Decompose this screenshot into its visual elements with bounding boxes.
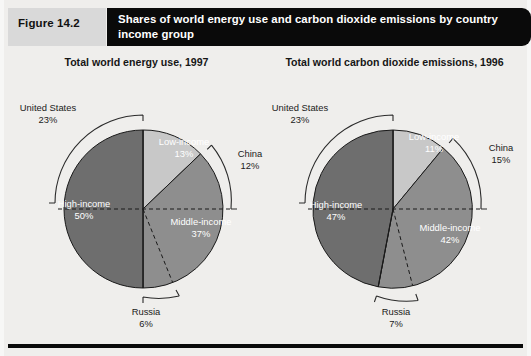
bracket-label-united-states: United States 23%: [6, 102, 90, 125]
chart-energy-use: Total world energy use, 1997: [4, 56, 269, 336]
slice-value-low-income: 13%: [175, 148, 194, 159]
bracket-name-united-states: United States: [20, 102, 76, 113]
chart-co2-emissions: Total world carbon dioxide emissions, 19…: [262, 56, 527, 336]
bracket-label-china: China 15%: [480, 142, 522, 165]
slice-label-middle-income: Middle-income 42%: [404, 222, 496, 245]
slice-name-middle-income: Middle-income: [420, 222, 481, 233]
bracket-name-russia: Russia: [382, 306, 411, 317]
bracket-value-united-states: 23%: [39, 114, 58, 125]
figure-title: Shares of world energy use and carbon di…: [118, 12, 524, 42]
chart-title-energy-use: Total world energy use, 1997: [4, 56, 269, 68]
slice-label-middle-income: Middle-income 37%: [156, 216, 246, 239]
bottom-rule: [8, 344, 523, 348]
bracket-label-russia: Russia 6%: [118, 306, 174, 329]
bracket-value-china: 12%: [241, 160, 260, 171]
figure-page: Figure 14.2 Shares of world energy use a…: [0, 0, 531, 356]
pie-plot-co2-emissions: Low-income 11% Middle-income 42% High-in…: [262, 74, 527, 336]
figure-header: Figure 14.2 Shares of world energy use a…: [0, 8, 531, 46]
bracket-name-china: China: [238, 148, 263, 159]
bracket-value-russia: 7%: [389, 318, 403, 329]
bracket-value-russia: 6%: [139, 318, 153, 329]
slice-value-middle-income: 37%: [192, 228, 211, 239]
figure-number-label: Figure 14.2: [18, 17, 80, 29]
slice-label-low-income: Low-income 11%: [397, 131, 471, 154]
slice-value-low-income: 11%: [425, 143, 443, 154]
pie-plot-energy-use: Low-income 13% Middle-income 37% High-in…: [4, 74, 269, 336]
slice-name-low-income: Low-income: [159, 136, 210, 147]
slice-name-high-income: High-income: [310, 199, 363, 210]
bracket-russia: [374, 294, 418, 302]
bracket-value-united-states: 23%: [291, 114, 310, 125]
bracket-label-united-states: United States 23%: [258, 102, 342, 125]
slice-value-high-income: 47%: [327, 211, 346, 222]
slice-value-middle-income: 42%: [441, 234, 460, 245]
bracket-name-china: China: [489, 142, 514, 153]
slice-name-low-income: Low-income: [409, 131, 460, 142]
bracket-russia: [143, 290, 179, 303]
slice-value-high-income: 50%: [75, 210, 94, 221]
chart-title-co2-emissions: Total world carbon dioxide emissions, 19…: [262, 56, 527, 68]
bracket-label-russia: Russia 7%: [368, 306, 424, 329]
slice-name-high-income: High-income: [58, 198, 111, 209]
slice-label-high-income: High-income 50%: [42, 198, 126, 221]
page-edge-right: [527, 0, 531, 356]
slice-name-middle-income: Middle-income: [171, 216, 232, 227]
slice-label-low-income: Low-income 13%: [147, 136, 221, 159]
slice-label-high-income: High-income 47%: [294, 199, 378, 222]
bracket-name-russia: Russia: [132, 306, 161, 317]
bracket-value-china: 15%: [492, 154, 511, 165]
bracket-name-united-states: United States: [272, 102, 328, 113]
